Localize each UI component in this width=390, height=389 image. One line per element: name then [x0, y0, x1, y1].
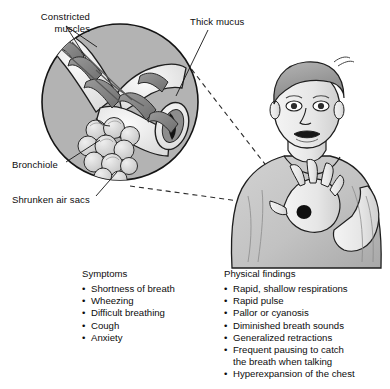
list-item: Frequent pausing to catch the breath whe… [224, 344, 390, 368]
label-constricted-muscles: Constricted muscles [6, 11, 90, 34]
list-item: Shortness of breath [82, 283, 222, 295]
boy-in-respiratory-distress [232, 57, 382, 268]
physical-findings-list: Rapid, shallow respirations Rapid pulse … [224, 283, 390, 381]
label-bronchiole: Bronchiole [12, 159, 58, 171]
illustration-svg [0, 0, 390, 270]
boy-ear-right [334, 101, 344, 119]
lists-area: Symptoms Shortness of breath Wheezing Di… [0, 268, 390, 389]
chest-focus-marker [297, 205, 312, 219]
illustration-area: Constricted muscles Thick mucus Bronchio… [0, 0, 390, 270]
list-item: Difficult breathing [82, 307, 222, 319]
label-shrunken-air-sacs: Shrunken air sacs [12, 194, 90, 206]
symptoms-column: Symptoms Shortness of breath Wheezing Di… [82, 268, 222, 344]
list-item: Rapid pulse [224, 295, 390, 307]
list-item: Cough [82, 320, 222, 332]
symptoms-title: Symptoms [82, 268, 222, 280]
boy-ear-left [270, 101, 280, 119]
list-item: Hyperexpansion of the chest [224, 368, 390, 380]
symptoms-list: Shortness of breath Wheezing Difficult b… [82, 283, 222, 344]
asthma-illustration-page: Constricted muscles Thick mucus Bronchio… [0, 0, 390, 389]
list-item: Generalized retractions [224, 332, 390, 344]
label-thick-mucus: Thick mucus [190, 16, 244, 28]
list-item: Anxiety [82, 332, 222, 344]
list-item: Pallor or cyanosis [224, 307, 390, 319]
list-item: Diminished breath sounds [224, 320, 390, 332]
bronchiole-magnified-view [42, 24, 198, 187]
physical-findings-title: Physical findings [224, 268, 390, 280]
list-item: Rapid, shallow respirations [224, 283, 390, 295]
boy-hair-tuft [334, 57, 354, 66]
physical-findings-column: Physical findings Rapid, shallow respira… [224, 268, 390, 381]
list-item: Wheezing [82, 295, 222, 307]
